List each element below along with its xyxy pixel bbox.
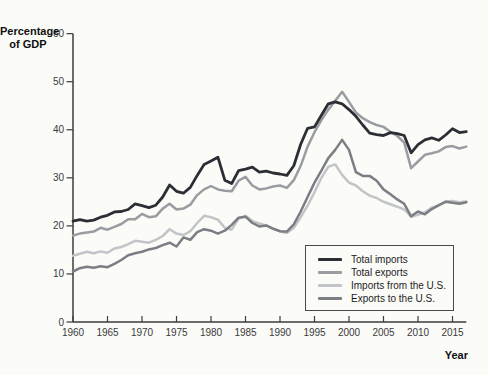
legend-label-2: Imports from the U.S.	[351, 280, 446, 291]
chart-legend: Total importsTotal exportsImports from t…	[305, 245, 454, 311]
x-tick-label: 1960	[62, 327, 85, 338]
chart-canvas: 0102030405060196019651970197519801985199…	[0, 0, 488, 375]
legend-item: Exports to the U.S.	[318, 292, 446, 305]
legend-label-3: Exports to the U.S.	[351, 293, 435, 304]
x-tick-label: 1970	[131, 327, 154, 338]
y-tick-label: 10	[53, 268, 65, 279]
y-axis-title-line2: of GDP	[0, 38, 56, 51]
y-tick-label: 30	[53, 172, 65, 183]
legend-swatch-0	[318, 258, 342, 261]
x-tick-label: 2005	[372, 327, 395, 338]
legend-item: Total imports	[318, 253, 446, 266]
x-tick-label: 1980	[200, 327, 223, 338]
x-tick-label: 1965	[96, 327, 119, 338]
series-line-total-imports	[73, 102, 466, 221]
x-tick-label: 2010	[407, 327, 430, 338]
legend-swatch-1	[318, 271, 342, 274]
legend-swatch-2	[318, 284, 342, 287]
y-axis-title: Percentage of GDP	[0, 25, 56, 51]
legend-item: Imports from the U.S.	[318, 279, 446, 292]
legend-item: Total exports	[318, 266, 446, 279]
y-axis-title-line1: Percentage	[0, 25, 56, 38]
x-tick-label: 1975	[165, 327, 188, 338]
x-tick-label: 2000	[338, 327, 361, 338]
chart-figure: 0102030405060196019651970197519801985199…	[0, 0, 488, 375]
y-tick-label: 50	[53, 76, 65, 87]
x-axis-title: Year	[445, 349, 468, 361]
x-tick-label: 2015	[441, 327, 464, 338]
y-tick-label: 20	[53, 220, 65, 231]
legend-label-1: Total exports	[351, 267, 408, 278]
legend-label-0: Total imports	[351, 254, 408, 265]
legend-swatch-3	[318, 297, 342, 300]
y-tick-label: 0	[58, 317, 64, 328]
y-tick-label: 40	[53, 124, 65, 135]
x-tick-label: 1985	[234, 327, 257, 338]
x-tick-label: 1995	[303, 327, 326, 338]
x-tick-label: 1990	[269, 327, 292, 338]
